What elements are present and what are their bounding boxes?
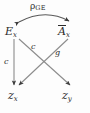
node-zx: zx xyxy=(8,90,18,103)
node-abar-x-subscript: x xyxy=(66,31,70,39)
node-abar-x: Ax xyxy=(58,25,70,39)
node-ex-subscript: x xyxy=(13,31,17,39)
path-diagram: ρGE Ex Ax zx zy c c g xyxy=(0,0,90,113)
edge-label-abarx-to-zx: g xyxy=(55,49,60,57)
edge-label-ex-to-zy: c xyxy=(31,43,35,51)
node-zy-subscript: y xyxy=(68,95,72,103)
correlation-arc-rho-ge xyxy=(19,15,69,22)
node-zy: zy xyxy=(62,90,72,103)
correlation-label-rho-ge: ρGE xyxy=(30,2,46,12)
node-zx-subscript: x xyxy=(14,95,18,103)
node-ex: Ex xyxy=(5,26,17,39)
node-ex-label: E xyxy=(5,25,13,38)
edge-label-ex-to-zx: c xyxy=(4,58,8,66)
node-abar-x-label: A xyxy=(58,25,66,37)
rho-subscript: GE xyxy=(35,4,45,12)
